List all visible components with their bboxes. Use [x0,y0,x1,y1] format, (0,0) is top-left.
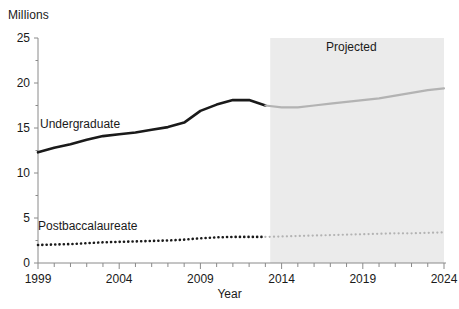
postbaccalaureate-series-label: Postbaccalaureate [38,219,137,233]
y-tick-label: 5 [4,212,30,224]
y-tick-label: 10 [4,167,30,179]
projected-region-rect [270,38,444,263]
x-tick-label: 2024 [421,273,459,285]
x-tick-label: 1999 [15,273,61,285]
undergraduate-series-label: Undergraduate [40,117,120,131]
y-tick-label: 15 [4,122,30,134]
chart-figure: Millions Projected Undergraduate Postbac… [0,0,459,309]
x-tick-label: 2009 [177,273,223,285]
projected-region-label: Projected [326,40,377,54]
y-tick-label: 20 [4,77,30,89]
x-tick-label: 2004 [96,273,142,285]
x-tick-label: 2019 [340,273,386,285]
y-tick-label: 0 [4,257,30,269]
projected-shading [270,38,444,263]
plot-area [0,0,459,309]
y-tick-label: 25 [4,32,30,44]
series-line-actual [38,237,265,245]
y-axis-unit-label: Millions [8,8,49,22]
x-tick-label: 2014 [259,273,305,285]
x-axis-title: Year [0,287,459,301]
